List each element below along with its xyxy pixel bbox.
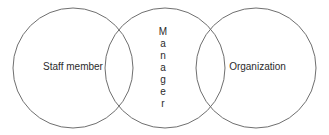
manager-letter-4: a	[140, 62, 186, 74]
venn-diagram: Staff member M a n a g e r Organization	[0, 0, 329, 135]
manager-letter-3: n	[140, 50, 186, 62]
manager-letter-2: a	[140, 38, 186, 50]
label-manager: M a n a g e r	[140, 26, 186, 110]
label-staff-member: Staff member	[0, 62, 146, 72]
manager-letter-7: r	[140, 98, 186, 110]
manager-letter-6: e	[140, 86, 186, 98]
label-organization: Organization	[186, 62, 329, 72]
manager-letter-1: M	[140, 26, 186, 38]
manager-letter-5: g	[140, 74, 186, 86]
